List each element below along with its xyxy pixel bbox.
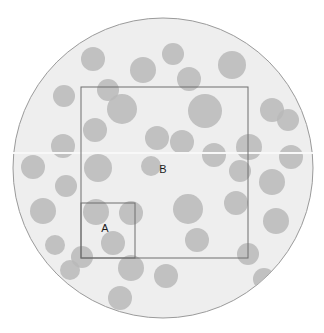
- particle: [173, 194, 203, 224]
- particle: [60, 260, 80, 280]
- particle: [279, 145, 303, 169]
- particle: [218, 51, 246, 79]
- particle: [108, 286, 132, 310]
- figure-root: BA: [0, 0, 324, 333]
- particle: [97, 79, 119, 101]
- particle: [81, 47, 105, 71]
- particle: [263, 208, 289, 234]
- particle: [53, 85, 75, 107]
- particle: [154, 264, 178, 288]
- quadrat-label-b: B: [159, 163, 166, 175]
- particle: [130, 57, 156, 83]
- particle: [30, 198, 56, 224]
- particle: [170, 130, 194, 154]
- particle: [236, 134, 262, 160]
- particle: [188, 94, 222, 128]
- particle: [118, 255, 144, 281]
- particle: [145, 126, 169, 150]
- particle: [45, 235, 65, 255]
- particle: [101, 231, 125, 255]
- particle: [277, 109, 299, 131]
- particle: [259, 169, 285, 195]
- particle: [141, 156, 161, 176]
- particle: [84, 154, 112, 182]
- particle: [162, 43, 184, 65]
- particle: [185, 228, 209, 252]
- particle: [21, 155, 45, 179]
- quadrat-label-a: A: [101, 222, 109, 234]
- quadrat-sampling-diagram: BA: [0, 0, 324, 333]
- particle: [83, 118, 107, 142]
- particle: [119, 201, 143, 225]
- particle: [202, 143, 226, 167]
- particle: [224, 191, 248, 215]
- particle: [51, 134, 75, 158]
- field-highlight-band: [13, 152, 313, 154]
- particle: [55, 175, 77, 197]
